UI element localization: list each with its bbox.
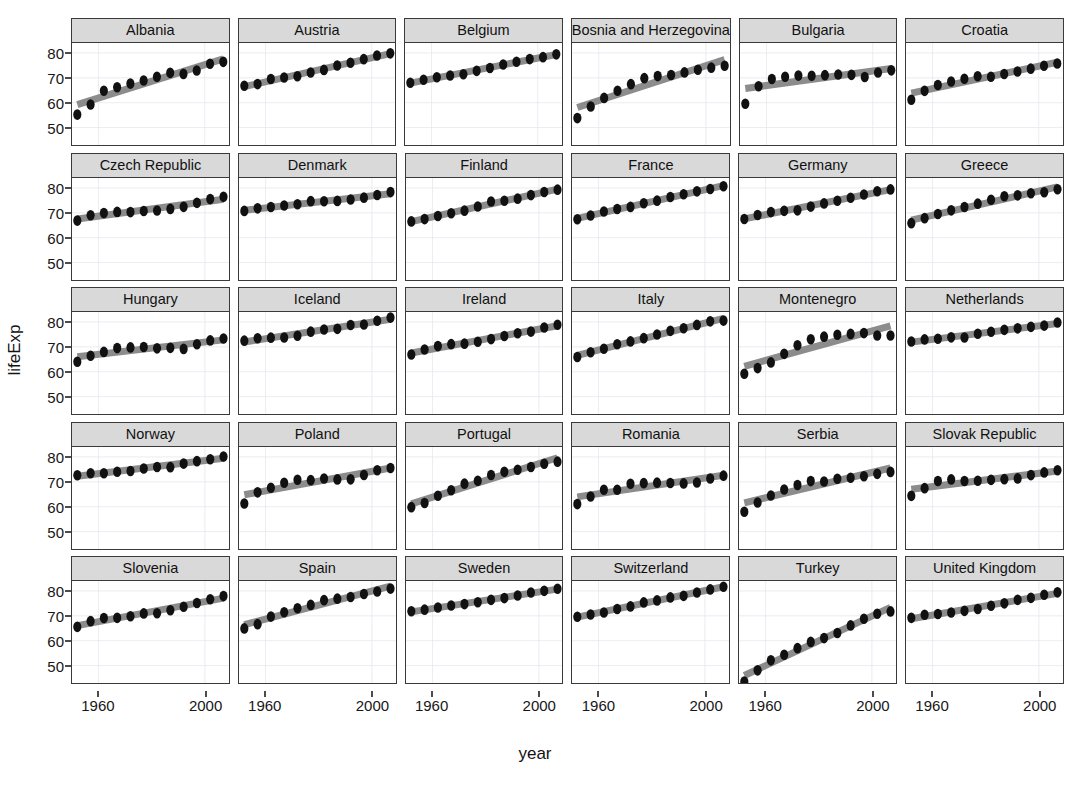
x-tick-label: 2000 <box>856 698 889 713</box>
data-point <box>680 591 688 602</box>
facet-plot-area <box>405 178 564 281</box>
y-axis-ticks: 50607080 <box>28 153 71 288</box>
facet-plot-area <box>905 43 1064 146</box>
data-point <box>1040 186 1048 197</box>
data-point <box>386 462 394 473</box>
facet-plot-area <box>71 43 230 146</box>
data-point <box>640 73 648 84</box>
data-point <box>373 50 381 61</box>
facet-plot-area <box>71 581 230 684</box>
gridlines <box>72 178 229 280</box>
data-point <box>781 71 789 82</box>
facet-strip: Bosnia and Herzegovina <box>571 18 731 43</box>
facet-strip-label: Croatia <box>961 23 1008 38</box>
facet-strip-label: Spain <box>299 561 336 576</box>
data-point <box>627 336 635 347</box>
data-point <box>627 79 635 90</box>
data-point <box>373 586 381 597</box>
facet-panel: Iceland <box>238 287 397 422</box>
facet-panel: Austria <box>238 18 397 153</box>
data-point <box>359 54 367 65</box>
data-point <box>1054 464 1062 475</box>
data-point <box>293 198 301 209</box>
facet-row: 50607080AlbaniaAustriaBelgiumBosnia and … <box>28 18 1064 153</box>
data-point <box>987 600 995 611</box>
data-point <box>126 465 134 476</box>
data-point <box>847 620 855 631</box>
gridlines <box>906 447 1063 549</box>
facet-strip-label: Italy <box>638 292 665 307</box>
x-axis-spacer <box>28 691 71 717</box>
facet-strip: Spain <box>238 556 397 581</box>
data-point <box>873 608 881 619</box>
data-point <box>947 474 955 485</box>
data-point <box>140 463 148 474</box>
facet-plot-area <box>405 312 564 415</box>
data-point <box>320 324 328 335</box>
facet-strip-label: Albania <box>126 23 174 38</box>
data-point <box>974 198 982 209</box>
data-point <box>680 188 688 199</box>
facet-strip-label: Iceland <box>294 292 341 307</box>
facet-strip-label: Ireland <box>462 292 506 307</box>
x-tick-label: 2000 <box>689 698 722 713</box>
trend-line <box>911 593 1057 618</box>
facet-strip-label: Finland <box>460 158 508 173</box>
x-tick-label: 2000 <box>356 698 389 713</box>
data-point <box>267 611 275 622</box>
gridlines <box>72 312 229 414</box>
data-point <box>240 623 248 634</box>
data-point <box>1001 69 1009 80</box>
data-point <box>974 71 982 82</box>
data-point <box>460 478 468 489</box>
x-tick-label: 2000 <box>189 698 222 713</box>
y-tick-label: 50 <box>47 524 64 539</box>
facet-strip: Turkey <box>738 556 897 581</box>
facet-panel: Portugal <box>405 422 564 557</box>
data-point <box>947 607 955 618</box>
data-point <box>947 332 955 343</box>
facet-strip: Austria <box>238 18 397 43</box>
data-point <box>1014 595 1022 606</box>
facet-panel: United Kingdom <box>905 556 1064 691</box>
facet-plot-area <box>238 312 397 415</box>
data-point <box>921 86 929 97</box>
data-point <box>153 608 161 619</box>
data-point <box>834 69 842 80</box>
trend-line <box>244 193 390 210</box>
data-point <box>640 477 648 488</box>
data-point <box>600 607 608 618</box>
data-point <box>907 217 915 228</box>
data-point <box>754 81 762 92</box>
trend-line <box>745 326 891 366</box>
data-point <box>1054 58 1062 69</box>
data-point <box>193 339 201 350</box>
data-point <box>754 209 762 220</box>
data-point <box>741 368 749 379</box>
data-point <box>1027 593 1035 604</box>
facet-strip: Albania <box>71 18 230 43</box>
facet-strip: Belgium <box>404 18 563 43</box>
data-point <box>1000 598 1008 609</box>
x-axis-row: 1960200019602000196020001960200019602000… <box>28 691 1064 717</box>
data-point <box>834 628 842 639</box>
data-point <box>934 609 942 620</box>
gridlines <box>239 581 396 683</box>
data-point <box>87 209 95 220</box>
data-point <box>100 85 108 96</box>
data-point <box>1000 325 1008 336</box>
data-point <box>240 498 248 509</box>
data-point <box>961 201 969 212</box>
data-point <box>153 461 161 472</box>
facet-row: 50607080SloveniaSpainSwedenSwitzerlandTu… <box>28 556 1064 691</box>
facet-panel: Bosnia and Herzegovina <box>571 18 731 153</box>
data-point <box>267 332 275 343</box>
data-point <box>1027 469 1035 480</box>
gridlines <box>572 447 729 549</box>
data-point <box>360 319 368 330</box>
facet-panel: Greece <box>905 153 1064 288</box>
data-point <box>720 470 728 481</box>
data-point <box>574 498 582 509</box>
data-point <box>539 52 547 63</box>
gridlines <box>239 447 396 549</box>
